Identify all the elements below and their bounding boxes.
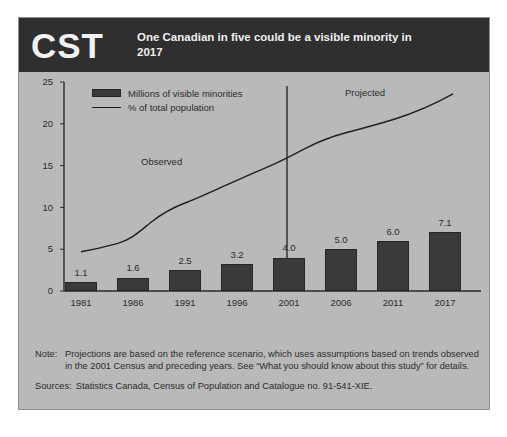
note-body: Projections are based on the reference s… — [65, 348, 479, 373]
bar-2017 — [429, 232, 461, 291]
chart-figure: CST One Canadian in five could be a visi… — [0, 0, 507, 437]
x-tick-2011: 2011 — [370, 298, 416, 308]
bar-1996 — [221, 264, 253, 291]
bar-1981 — [65, 282, 97, 291]
x-tick-1996: 1996 — [214, 298, 260, 308]
y-tick-15: 15 — [31, 161, 53, 171]
bar-2011 — [377, 241, 409, 291]
legend-item-line: % of total population — [92, 100, 243, 114]
bar-label-2017: 7.1 — [422, 218, 468, 228]
sources-block: Sources: Statistics Canada, Census of Po… — [35, 380, 479, 392]
chart-legend: Millions of visible minorities % of tota… — [92, 86, 243, 114]
bar-1991 — [169, 270, 201, 291]
x-tick-1981: 1981 — [58, 298, 104, 308]
chart-header: CST One Canadian in five could be a visi… — [19, 18, 489, 72]
plot-area: 25 20 15 10 5 0 1.1 1.6 2.5 3.2 — [19, 72, 491, 320]
bar-swatch-icon — [92, 89, 121, 97]
x-tick-1986: 1986 — [110, 298, 156, 308]
bar-label-2011: 6.0 — [370, 227, 416, 237]
line-swatch-icon — [92, 107, 121, 108]
bar-label-2006: 5.0 — [318, 235, 364, 245]
bar-label-2001: 4.0 — [266, 243, 312, 253]
bar-label-1991: 2.5 — [162, 256, 208, 266]
y-tick-5: 5 — [31, 244, 53, 254]
x-tick-2006: 2006 — [318, 298, 364, 308]
chart-title: One Canadian in five could be a visible … — [137, 30, 437, 59]
projected-label: Projected — [345, 88, 385, 98]
x-tick-2017: 2017 — [422, 298, 468, 308]
cst-logo: CST — [31, 28, 135, 63]
note-block: Note: Projections are based on the refer… — [35, 348, 479, 373]
bar-label-1996: 3.2 — [214, 250, 260, 260]
bar-2001 — [273, 258, 305, 291]
footnotes: Note: Projections are based on the refer… — [35, 348, 479, 392]
sources-key: Sources: — [35, 380, 72, 392]
bar-1986 — [117, 278, 149, 291]
sources-body: Statistics Canada, Census of Population … — [76, 380, 479, 392]
x-tick-1991: 1991 — [162, 298, 208, 308]
chart-panel: CST One Canadian in five could be a visi… — [18, 17, 490, 410]
x-tick-2001: 2001 — [266, 298, 312, 308]
legend-item-bars: Millions of visible minorities — [92, 86, 243, 100]
legend-label-bars: Millions of visible minorities — [128, 88, 243, 99]
y-tick-0: 0 — [31, 286, 53, 296]
bar-label-1981: 1.1 — [58, 268, 104, 278]
plot-region: 25 20 15 10 5 0 1.1 1.6 2.5 3.2 — [19, 72, 491, 411]
y-tick-25: 25 — [31, 77, 53, 87]
bar-label-1986: 1.6 — [110, 263, 156, 273]
y-tick-10: 10 — [31, 203, 53, 213]
legend-label-line: % of total population — [128, 102, 214, 113]
note-key: Note: — [35, 348, 65, 373]
bar-2006 — [325, 249, 357, 291]
y-tick-20: 20 — [31, 119, 53, 129]
observed-label: Observed — [141, 157, 182, 167]
